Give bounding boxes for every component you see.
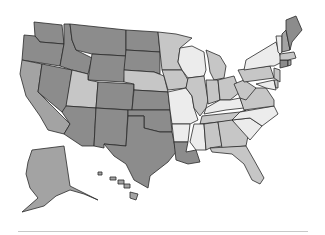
us-choropleth-map <box>0 0 325 235</box>
state-ar <box>172 124 190 142</box>
state-ma <box>280 52 296 60</box>
state-mi <box>206 50 226 80</box>
state-ms <box>190 124 206 150</box>
state-hi-1 <box>98 172 102 175</box>
state-hi-4 <box>124 184 130 188</box>
bottom-divider <box>18 231 308 232</box>
state-hi-2 <box>110 177 116 180</box>
state-ny <box>244 42 282 70</box>
state-nd <box>126 30 160 52</box>
state-in <box>206 80 220 104</box>
state-wy <box>88 54 126 82</box>
state-ri <box>288 60 291 66</box>
state-ak <box>22 146 98 212</box>
state-hi-5 <box>130 192 138 200</box>
state-fl <box>210 146 264 184</box>
state-ks <box>132 90 170 110</box>
state-ct <box>280 60 288 68</box>
state-co <box>96 82 134 110</box>
state-hi-3 <box>118 180 124 184</box>
state-nm <box>94 108 128 148</box>
